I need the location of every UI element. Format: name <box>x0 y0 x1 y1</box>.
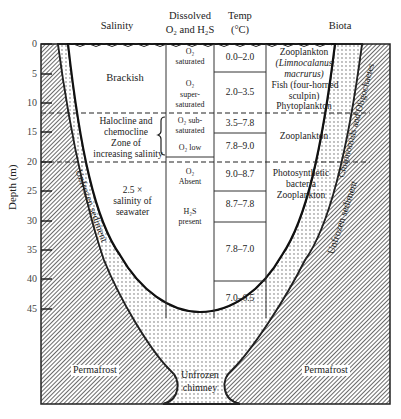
oxygen-cell-1b: saturated <box>166 58 214 66</box>
permafrost-left-label: Permafrost <box>71 365 119 376</box>
biota-photosynthetic: Photosynthetic <box>266 169 336 179</box>
depth-tick-35: 35 <box>15 244 37 255</box>
salinity-deep-1: 2.5 × <box>100 186 165 196</box>
temp-cell-6: 8.7–7.8 <box>214 200 266 210</box>
oxygen-cell-6b: present <box>166 218 214 226</box>
salinity-halocline-2: chemocline <box>90 128 162 138</box>
salinity-halocline-4: increasing salinity <box>88 150 168 160</box>
header-salinity: Salinity <box>82 20 152 31</box>
oxygen-cell-2c: saturated <box>166 101 214 109</box>
temp-cell-8: 7.0–6.5 <box>214 294 266 304</box>
temp-cell-2: 2.0–3.5 <box>214 88 266 98</box>
temp-cell-1: 0.0–2.0 <box>214 53 266 63</box>
biota-bacteria: bacteria <box>266 180 336 190</box>
depth-tick-5: 5 <box>15 68 37 79</box>
depth-tick-10: 10 <box>15 97 37 108</box>
oxygen-cell-3a: O₂ sub- <box>166 117 214 125</box>
temp-cell-5: 9.0–8.7 <box>214 170 266 180</box>
biota-limnocalanus: (Limnocalanus <box>266 59 342 69</box>
salinity-brackish: Brackish <box>90 72 160 83</box>
salinity-halocline-1: Halocline and <box>90 117 162 127</box>
biota-fish: Fish (four-horned <box>266 81 344 91</box>
biota-macrurus: macrurus) <box>266 70 342 80</box>
oxygen-cell-3b: saturated <box>166 127 214 135</box>
header-biota: Biota <box>305 20 375 31</box>
salinity-halocline-3: Zone of <box>90 139 162 149</box>
salinity-deep-3: seawater <box>100 208 165 218</box>
depth-tick-40: 40 <box>15 273 37 284</box>
header-temp-unit: (°C) <box>215 24 265 35</box>
depth-tick-45: 45 <box>15 303 37 314</box>
oxygen-cell-5a: O₂ <box>166 168 214 176</box>
oxygen-cell-5b: Absent <box>166 178 214 186</box>
oxygen-cell-6a: H₂S <box>166 208 214 216</box>
biota-zooplankton-2: Zooplankton <box>266 132 342 142</box>
header-temp: Temp <box>215 10 265 21</box>
temp-cell-3: 3.5–7.8 <box>214 119 266 129</box>
depth-tick-30: 30 <box>15 215 37 226</box>
salinity-deep-2: salinity of <box>100 197 165 207</box>
unfrozen-chimney-label-2: chimney <box>175 383 225 394</box>
temp-cell-4: 7.8–9.0 <box>214 142 266 152</box>
depth-tick-15: 15 <box>15 126 37 137</box>
oxygen-cell-2b: super- <box>166 91 214 99</box>
biota-zooplankton-1: Zooplankton <box>266 48 342 58</box>
biota-zooplankton-3: Zooplankton <box>266 191 336 201</box>
depth-tick-25: 25 <box>15 185 37 196</box>
temp-cell-7: 7.8–7.0 <box>214 245 266 255</box>
unfrozen-chimney-label-1: Unfrozen <box>175 370 225 381</box>
oxygen-cell-2a: O₂ <box>166 80 214 88</box>
permafrost-right-label: Permafrost <box>302 365 350 376</box>
biota-phytoplankton: Phytoplankton <box>266 102 342 112</box>
depth-tick-20: 20 <box>15 156 37 167</box>
depth-tick-0: 0 <box>15 38 37 49</box>
oxygen-cell-1a: O₂ <box>166 48 214 56</box>
oxygen-cell-4: O₂ low <box>166 144 214 152</box>
